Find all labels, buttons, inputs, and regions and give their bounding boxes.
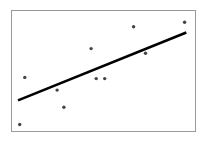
data-point (18, 123, 21, 126)
data-point (183, 21, 186, 24)
caption (0, 133, 206, 143)
data-point (62, 106, 65, 109)
data-point (89, 47, 92, 50)
data-point (23, 76, 26, 79)
data-point (144, 52, 147, 55)
data-point (95, 77, 98, 80)
scatter-chart (0, 0, 206, 143)
data-point (103, 77, 106, 80)
plot-frame (12, 11, 196, 132)
data-point (55, 88, 58, 91)
data-point (132, 25, 135, 28)
plot-area (0, 0, 206, 143)
